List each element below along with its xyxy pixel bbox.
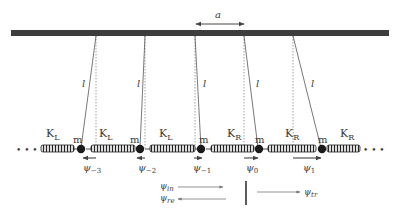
mass-label: m xyxy=(318,134,328,145)
mass xyxy=(318,145,326,153)
ellipsis-right: • • • xyxy=(363,145,385,155)
wave-legend: ψin ψre ψtr xyxy=(160,181,318,205)
spacing-indicator: a xyxy=(196,9,244,24)
spring-left xyxy=(41,145,74,152)
spring-right xyxy=(327,145,360,152)
mass-label: m xyxy=(130,134,140,145)
mass-label: m xyxy=(199,134,209,145)
string-length-label: l xyxy=(256,78,259,89)
mass xyxy=(255,145,263,153)
spring-constant-left-label: KL xyxy=(99,127,113,142)
displacement-label: ψ0 xyxy=(246,162,258,175)
mass xyxy=(77,145,85,153)
spring-left xyxy=(91,145,135,152)
displacement-label: ψ−1 xyxy=(193,162,211,175)
reflected-wave-label: ψre xyxy=(160,193,175,205)
string-length-label: l xyxy=(203,78,206,89)
displacement-label: ψ1 xyxy=(303,162,315,175)
ellipsis-left: • • • xyxy=(16,145,38,155)
spring-left xyxy=(150,145,195,152)
displacement-label: ψ−3 xyxy=(83,162,101,175)
equilibrium-lines xyxy=(96,36,293,150)
mass xyxy=(136,145,144,153)
incident-wave-label: ψin xyxy=(160,181,174,193)
spring-constant-left-label: KL xyxy=(46,127,60,142)
spring-right xyxy=(211,145,254,152)
string-length-label: l xyxy=(82,78,85,89)
mass-label: m xyxy=(255,134,265,145)
string-length-label: l xyxy=(137,78,140,89)
spring-right xyxy=(268,145,316,152)
spring-constant-right-label: KR xyxy=(285,127,300,142)
mass xyxy=(197,145,205,153)
transmitted-wave-label: ψtr xyxy=(304,187,318,199)
spring-constant-right-label: KR xyxy=(227,127,242,142)
pendulum-chain-diagram: a l l l l l • • • • • • xyxy=(0,0,402,220)
spring-constant-right-label: KR xyxy=(340,127,355,142)
string-length-label: l xyxy=(311,78,314,89)
spacing-label: a xyxy=(215,9,221,20)
support-bar xyxy=(11,30,389,36)
displacement-label: ψ−2 xyxy=(138,162,156,175)
mass-label: m xyxy=(73,134,83,145)
spring-constant-left-label: KL xyxy=(159,127,173,142)
